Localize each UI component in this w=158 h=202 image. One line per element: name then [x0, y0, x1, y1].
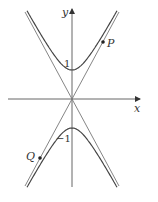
point-p: [101, 40, 105, 44]
y-axis-label: y: [61, 6, 69, 19]
point-p-label: P: [106, 37, 115, 50]
point-q: [38, 156, 42, 160]
tick-label-minus-1: −1: [56, 133, 71, 144]
x-axis-label: x: [134, 102, 141, 115]
tick-label-1: 1: [64, 58, 70, 69]
hyperbola-diagram: y x P Q 1 −1: [0, 0, 158, 202]
point-q-label: Q: [26, 150, 35, 163]
